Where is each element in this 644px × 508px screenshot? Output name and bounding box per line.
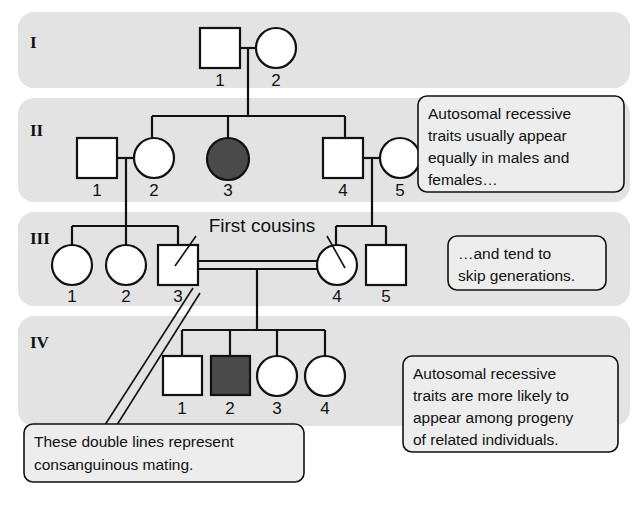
individual-label-i-2: 2: [271, 71, 280, 90]
individual-label-iii-5: 5: [381, 287, 390, 306]
individual-i-1[interactable]: [200, 28, 240, 68]
individual-ii-1[interactable]: [77, 138, 117, 178]
individual-iii-1[interactable]: [52, 245, 92, 285]
individual-iii-5[interactable]: [366, 245, 406, 285]
individual-ii-5[interactable]: [380, 138, 420, 178]
individual-label-iv-2: 2: [225, 399, 234, 418]
individual-label-iii-3: 3: [173, 287, 182, 306]
individual-i-2[interactable]: [256, 28, 296, 68]
callout-double-lines-line-2: consanguinous mating.: [34, 456, 193, 473]
individual-label-ii-5: 5: [395, 181, 404, 200]
individual-iv-4[interactable]: [305, 356, 345, 396]
individual-label-ii-4: 4: [338, 181, 347, 200]
individual-label-ii-2: 2: [149, 181, 158, 200]
generation-label-ii: II: [30, 121, 44, 140]
callout-males-females-line-1: Autosomal recessive: [428, 105, 571, 122]
individual-label-iii-2: 2: [121, 287, 130, 306]
individual-iv-1[interactable]: [163, 356, 202, 395]
individual-label-ii-3: 3: [223, 181, 232, 200]
individual-label-ii-1: 1: [92, 181, 101, 200]
individual-ii-4[interactable]: [323, 138, 363, 178]
generation-label-i: I: [30, 33, 37, 52]
first-cousins-label: First cousins: [209, 215, 316, 236]
individual-iii-3[interactable]: [158, 245, 198, 285]
callout-double-lines-line-1: These double lines represent: [34, 433, 235, 450]
individual-label-i-1: 1: [215, 71, 224, 90]
callout-related-individuals-line-1: Autosomal recessive: [413, 365, 556, 382]
individual-label-iv-4: 4: [320, 399, 329, 418]
callout-related-individuals-line-2: traits are more likely to: [413, 387, 569, 404]
individual-iii-2[interactable]: [106, 245, 146, 285]
callout-males-females-line-4: females…: [428, 171, 498, 188]
individual-label-iii-1: 1: [67, 287, 76, 306]
pedigree-diagram: I II III IV 1 2 1 2 3 4 5: [0, 0, 644, 508]
individual-ii-2[interactable]: [134, 138, 174, 178]
callout-related-individuals-line-3: appear among progeny: [413, 409, 574, 426]
individual-label-iv-3: 3: [272, 399, 281, 418]
generation-label-iii: III: [30, 229, 50, 248]
generation-band-i: [18, 12, 630, 88]
individual-label-iii-4: 4: [332, 287, 341, 306]
callout-skip-generations-line-1: …and tend to: [458, 245, 551, 262]
individual-ii-3[interactable]: [207, 138, 249, 180]
individual-label-iv-1: 1: [177, 399, 186, 418]
individual-iv-2[interactable]: [211, 356, 250, 395]
callout-males-females-line-3: equally in males and: [428, 149, 569, 166]
individual-iv-3[interactable]: [257, 356, 297, 396]
callout-related-individuals-line-4: of related individuals.: [413, 431, 559, 448]
callout-skip-generations-line-2: skip generations.: [458, 267, 575, 284]
individual-iii-4[interactable]: [317, 245, 357, 285]
generation-label-iv: IV: [30, 333, 50, 352]
callout-males-females-line-2: traits usually appear: [428, 127, 567, 144]
